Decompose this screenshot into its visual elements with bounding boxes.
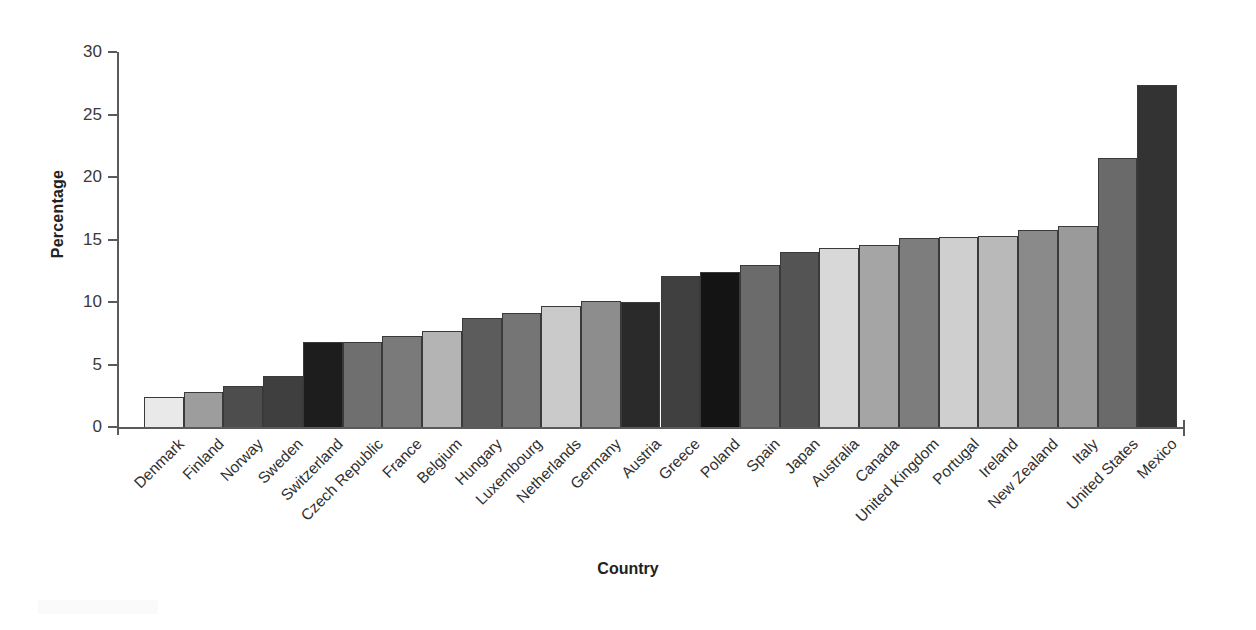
bar xyxy=(541,306,581,427)
bar xyxy=(740,265,780,428)
x-axis-tick-label-text: United States xyxy=(1063,435,1142,514)
bar xyxy=(303,342,343,427)
y-axis-tick xyxy=(108,114,117,116)
y-axis-tick-label: 5 xyxy=(56,355,102,375)
x-axis-tick-label: Austria xyxy=(618,435,665,482)
bar xyxy=(263,376,303,427)
x-axis-tick-labels: DenmarkFinlandNorwaySwedenSwitzerlandCze… xyxy=(117,429,1185,549)
bar xyxy=(1018,230,1058,428)
bar xyxy=(899,238,939,427)
bar xyxy=(144,397,184,427)
bar-chart-figure: Percentage 051015202530 DenmarkFinlandNo… xyxy=(0,0,1256,630)
y-axis-tick-label: 10 xyxy=(56,292,102,312)
bar xyxy=(1058,226,1098,427)
x-axis-tick-label-text: Poland xyxy=(697,435,744,482)
bar xyxy=(422,331,462,427)
x-axis-tick-label: Denmark xyxy=(131,435,188,492)
bar xyxy=(939,237,979,427)
x-axis-title: Country xyxy=(0,560,1256,578)
bar xyxy=(502,313,542,427)
x-axis-tick-label: United States xyxy=(1063,435,1142,514)
bar xyxy=(978,236,1018,427)
bar xyxy=(780,252,820,427)
bar xyxy=(1098,158,1138,427)
bar xyxy=(700,272,740,427)
x-axis-tick-label: Spain xyxy=(743,435,784,476)
x-axis-tick-label: Italy xyxy=(1069,435,1102,468)
y-axis-tick xyxy=(108,426,117,428)
x-axis-tick-label-text: Greece xyxy=(656,435,705,484)
x-axis-tick-label-text: Italy xyxy=(1069,435,1102,468)
x-axis-tick-label: Greece xyxy=(656,435,705,484)
y-axis-tick xyxy=(108,51,117,53)
x-axis-tick-label: Mexico xyxy=(1134,435,1181,482)
y-axis-tick xyxy=(108,301,117,303)
bar xyxy=(382,336,422,427)
bar xyxy=(343,342,383,427)
y-axis-tick-label: 0 xyxy=(56,417,102,437)
y-axis-tick-label: 25 xyxy=(56,105,102,125)
y-axis-tick xyxy=(108,364,117,366)
x-axis-tick-label: Poland xyxy=(697,435,744,482)
x-axis-tick-label-text: Spain xyxy=(743,435,784,476)
x-axis-tick-label-text: Mexico xyxy=(1134,435,1181,482)
y-axis-tick-label: 20 xyxy=(56,167,102,187)
x-axis-tick-label-text: Austria xyxy=(618,435,665,482)
bar xyxy=(462,318,502,427)
y-axis-tick xyxy=(108,239,117,241)
y-axis-tick-label: 15 xyxy=(56,230,102,250)
bar xyxy=(1137,85,1177,428)
bar xyxy=(661,276,701,427)
y-axis-tick-label: 30 xyxy=(56,42,102,62)
bar xyxy=(859,245,899,428)
bar xyxy=(223,386,263,427)
bar xyxy=(184,392,224,427)
bar xyxy=(621,302,661,427)
bar xyxy=(819,248,859,427)
bar xyxy=(581,301,621,427)
x-axis-tick-label-text: Denmark xyxy=(131,435,188,492)
y-axis-tick xyxy=(108,176,117,178)
scan-artifact xyxy=(38,600,158,614)
plot-area xyxy=(117,52,1185,427)
